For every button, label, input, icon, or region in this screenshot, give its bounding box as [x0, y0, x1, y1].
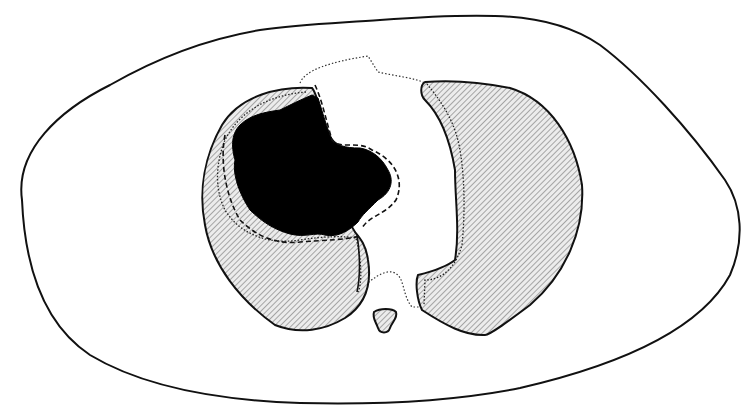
- chest-cross-section-diagram: [0, 0, 754, 409]
- left-lung: [417, 81, 583, 335]
- body-outline: [21, 16, 739, 404]
- cavity-mass: [233, 95, 392, 236]
- mediastinum-outline: [300, 56, 425, 83]
- vertebra: [373, 309, 396, 333]
